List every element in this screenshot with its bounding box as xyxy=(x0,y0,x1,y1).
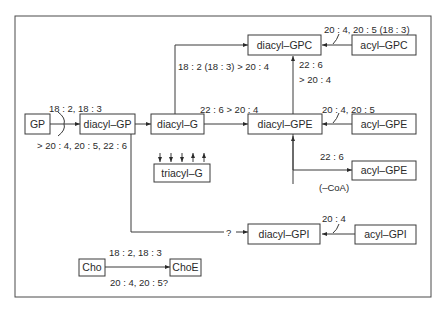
label-coa: (–CoA) xyxy=(319,182,349,193)
node-diacyl-gpc: diacyl–GPC xyxy=(248,35,321,55)
label-acyl-gpc: 20 : 4, 20 : 5 (18 : 3) xyxy=(324,24,410,35)
svg-text:GP: GP xyxy=(30,118,45,130)
node-diacyl-g: diacyl–G xyxy=(151,114,204,134)
label-diacyl-g-to-gpc: 18 : 2 (18 : 3) > 20 : 4 xyxy=(178,61,269,72)
node-acyl-gpc: acyl–GPC xyxy=(352,35,416,55)
acyl-gpc-input-curve xyxy=(333,34,339,44)
label-gpe-to-gpc-1: 22 : 6 xyxy=(299,59,323,70)
svg-text:Cho: Cho xyxy=(82,261,101,273)
svg-text:acyl–GPE: acyl–GPE xyxy=(361,164,408,176)
triacyl-g-exchange-arrows xyxy=(160,153,204,162)
node-acyl-gpi: acyl–GPI xyxy=(355,225,416,244)
diagram-frame xyxy=(15,16,431,297)
node-gp: GP xyxy=(25,114,50,134)
svg-text:acyl–GPC: acyl–GPC xyxy=(360,39,408,51)
svg-text:diacyl–GPI: diacyl–GPI xyxy=(259,228,310,240)
acyl-input-curve-bottom xyxy=(58,124,64,136)
label-gp-below: > 20 : 4, 20 : 5, 22 : 6 xyxy=(37,140,127,151)
label-cho-above: 18 : 2, 18 : 3 xyxy=(109,247,162,258)
label-gpe-to-gpc-2: > 20 : 4 xyxy=(299,74,331,85)
label-gpe-to-acyl-gpe: 22 : 6 xyxy=(320,151,344,162)
label-diacyl-g-to-gpe: 22 : 6 > 20 : 4 xyxy=(200,104,258,115)
svg-text:diacyl–GPC: diacyl–GPC xyxy=(257,39,313,51)
node-acyl-gpe-top: acyl–GPE xyxy=(352,114,416,134)
svg-text:diacyl–GPE: diacyl–GPE xyxy=(258,118,313,130)
node-choe: ChoE xyxy=(170,259,201,276)
svg-text:diacyl–G: diacyl–G xyxy=(157,118,198,130)
acyl-gpi-input-curve xyxy=(333,224,339,233)
label-cho-below: 20 : 4, 20 : 5? xyxy=(110,277,168,288)
label-acyl-gpi: 20 : 4 xyxy=(322,213,346,224)
node-acyl-gpe-bottom: acyl–GPE xyxy=(352,161,416,180)
svg-text:ChoE: ChoE xyxy=(172,261,198,273)
label-acyl-gpe: 20 : 4, 20 : 5 xyxy=(322,104,375,115)
node-diacyl-gpi: diacyl–GPI xyxy=(248,224,320,244)
node-diacyl-gp: diacyl–GP xyxy=(80,114,135,134)
svg-text:diacyl–GP: diacyl–GP xyxy=(84,118,132,130)
node-diacyl-gpe: diacyl–GPE xyxy=(248,114,322,134)
svg-text:triacyl–G: triacyl–G xyxy=(161,167,202,179)
label-gp-above: 18 : 2, 18 : 3 xyxy=(49,103,102,114)
svg-text:acyl–GPI: acyl–GPI xyxy=(364,228,407,240)
node-triacyl-g: triacyl–G xyxy=(154,164,210,182)
label-unknown: ? xyxy=(226,227,231,238)
node-cho: Cho xyxy=(79,259,105,276)
svg-text:acyl–GPE: acyl–GPE xyxy=(361,118,408,130)
edge-diacyl-gp-to-gpi xyxy=(131,134,224,232)
lipid-pathway-diagram: GP diacyl–GP diacyl–G diacyl–GPC acyl–GP… xyxy=(0,0,444,311)
